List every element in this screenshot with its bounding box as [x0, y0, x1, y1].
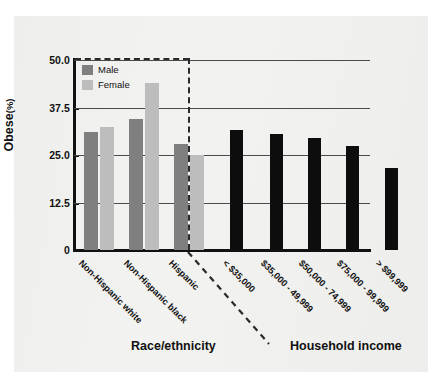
legend-swatch-male-icon	[82, 65, 93, 75]
bar-nh-black-female	[145, 83, 159, 250]
bar-nh-black-male	[129, 119, 143, 250]
bar-income-75000-99999	[346, 146, 359, 251]
gridline-50	[74, 60, 370, 61]
panel-divider-top	[75, 58, 189, 60]
bar-income-50000-74999	[308, 138, 321, 250]
bar-income-lt-35000	[230, 130, 243, 250]
panel-divider-vertical	[188, 58, 190, 250]
legend-item-female: Female	[82, 78, 130, 91]
y-tick-37-5: 37.5	[49, 102, 70, 114]
y-tick-50: 50.0	[49, 54, 70, 66]
legend-label-male: Male	[98, 64, 119, 75]
axis-title-race: Race/ethnicity	[131, 339, 216, 353]
gridline-12-5	[74, 203, 370, 204]
y-tick-0: 0	[64, 244, 70, 256]
gridline-37-5	[74, 108, 370, 109]
axis-title-income: Household income	[290, 339, 402, 353]
bar-hispanic-female	[190, 155, 204, 250]
legend: Male Female	[82, 63, 130, 93]
y-tick-25: 25.0	[49, 149, 70, 161]
legend-label-female: Female	[98, 79, 130, 90]
legend-item-male: Male	[82, 63, 130, 76]
y-tick-labels: 50.0 37.5 25.0 12.5 0	[26, 60, 70, 250]
y-tick-12-5: 12.5	[49, 197, 70, 209]
bar-hispanic-male	[174, 144, 188, 250]
y-axis-title-text: Obese	[2, 113, 16, 151]
bar-income-gt-99999	[385, 168, 398, 250]
y-axis-title: Obese(%)	[2, 99, 16, 152]
bar-income-35000-49999	[270, 134, 283, 250]
bar-nh-white-male	[84, 132, 98, 250]
figure-canvas: Obese(%) 50.0 37.5 25.0 12.5 0	[0, 0, 441, 392]
gridline-25	[74, 155, 370, 156]
bar-nh-white-female	[100, 127, 114, 251]
y-axis-unit: (%)	[4, 99, 15, 114]
legend-swatch-female-icon	[82, 80, 93, 90]
